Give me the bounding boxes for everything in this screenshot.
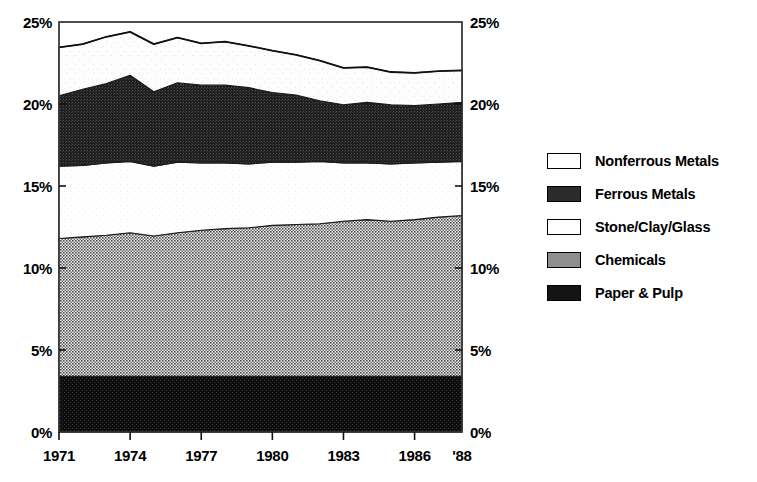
legend-item[interactable]: Stone/Clay/Glass	[547, 214, 757, 239]
legend-swatch-chemicals	[547, 252, 581, 268]
x-axis-label: 1983	[327, 447, 359, 464]
x-axis-label: 1971	[43, 447, 75, 464]
y-axis-label-right: 5%	[470, 342, 491, 359]
chart-legend: Nonferrous Metals Ferrous Metals Stone/C…	[547, 148, 757, 313]
x-axis-label: 1986	[399, 447, 431, 464]
legend-item[interactable]: Nonferrous Metals	[547, 148, 757, 173]
x-axis-label: 1980	[256, 447, 288, 464]
legend-label: Paper & Pulp	[595, 285, 683, 301]
y-axis-label-right: 20%	[470, 96, 499, 113]
y-axis-label-right: 10%	[470, 260, 499, 277]
stacked-area-chart: 0%0%5%5%10%10%15%15%20%20%25%25%19711974…	[0, 0, 520, 482]
y-axis-label: 10%	[23, 260, 52, 277]
x-axis-label: 1977	[185, 447, 217, 464]
x-axis-label: '88	[452, 447, 471, 464]
area-band-chemicals	[59, 216, 462, 377]
y-axis-label: 20%	[23, 96, 52, 113]
legend-label: Ferrous Metals	[595, 186, 695, 202]
legend-swatch-paper-pulp	[547, 285, 581, 301]
area-bands	[59, 32, 462, 432]
legend-label: Nonferrous Metals	[595, 153, 719, 169]
y-axis-label-right: 15%	[470, 178, 499, 195]
y-axis-label-right: 0%	[470, 424, 491, 441]
area-band-paper-pulp	[59, 376, 462, 432]
legend-label: Stone/Clay/Glass	[595, 219, 710, 235]
legend-item[interactable]: Paper & Pulp	[547, 280, 757, 305]
legend-item[interactable]: Ferrous Metals	[547, 181, 757, 206]
legend-label: Chemicals	[595, 252, 666, 268]
legend-swatch-nonferrous-metals	[547, 153, 581, 169]
legend-swatch-ferrous-metals	[547, 186, 581, 202]
chart-page: 0%0%5%5%10%10%15%15%20%20%25%25%19711974…	[0, 0, 757, 482]
y-axis-label: 0%	[31, 424, 52, 441]
x-axis-label: 1974	[114, 447, 147, 464]
y-axis-label: 25%	[23, 14, 52, 31]
y-axis-label-right: 25%	[470, 14, 499, 31]
y-axis-label: 5%	[31, 342, 52, 359]
legend-swatch-stone-clay-glass	[547, 219, 581, 235]
legend-item[interactable]: Chemicals	[547, 247, 757, 272]
chart-canvas: 0%0%5%5%10%10%15%15%20%20%25%25%19711974…	[0, 0, 520, 482]
y-axis-label: 15%	[23, 178, 52, 195]
